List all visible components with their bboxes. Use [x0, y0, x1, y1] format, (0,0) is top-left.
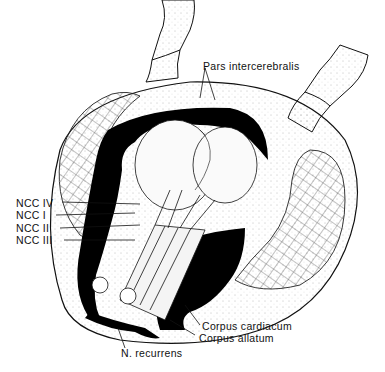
- label-ncc-iii: NCC III: [16, 234, 53, 246]
- corpus-allatum-right: [120, 288, 136, 304]
- label-n-recurrens: N. recurrens: [121, 347, 182, 359]
- right-brain-lobe: [193, 127, 257, 203]
- label-ncc-ii: NCC II: [16, 222, 49, 234]
- corpus-allatum-left: [92, 277, 108, 293]
- label-ncc-iv: NCC IV: [16, 197, 53, 209]
- label-pars-intercerebralis: Pars intercerebralis: [203, 60, 299, 72]
- label-corpus-allatum: Corpus allatum: [199, 332, 274, 344]
- left-antenna: [146, 0, 195, 82]
- insect-head-illustration: [0, 0, 385, 372]
- label-corpus-cardiacum: Corpus cardiacum: [202, 320, 292, 332]
- label-ncc-i: NCC I: [16, 209, 46, 221]
